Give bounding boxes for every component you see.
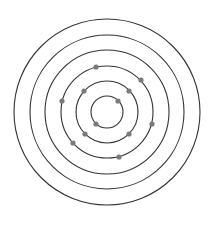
electron-shell-3-4 xyxy=(149,121,154,126)
electron-shell-3-5 xyxy=(70,140,75,145)
electron-shell-3-3 xyxy=(59,98,64,103)
shell-ring-4 xyxy=(45,50,169,174)
electron-shells xyxy=(14,19,200,205)
electron-shell-3-2 xyxy=(138,77,143,82)
electron-shell-1-1 xyxy=(115,98,120,103)
electron-shell-2-4 xyxy=(126,131,131,136)
electrons xyxy=(59,64,154,159)
electron-shell-3-1 xyxy=(93,64,98,69)
shell-ring-6 xyxy=(14,19,200,205)
electron-shell-3-6 xyxy=(116,154,121,159)
atom-shell-diagram xyxy=(0,0,208,226)
electron-shell-2-2 xyxy=(126,88,131,93)
electron-shell-1-2 xyxy=(93,121,98,126)
electron-shell-2-3 xyxy=(82,131,87,136)
electron-shell-2-1 xyxy=(81,88,86,93)
shell-ring-5 xyxy=(30,35,184,189)
